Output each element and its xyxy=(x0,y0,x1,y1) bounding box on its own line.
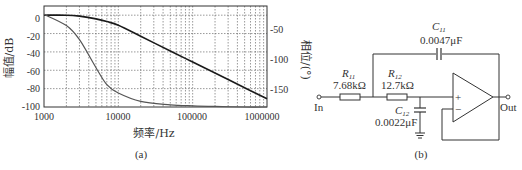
caption-b: (b) xyxy=(415,148,428,161)
caption-a: (a) xyxy=(135,148,148,161)
y-tick: -80 xyxy=(27,83,40,94)
y-tick: -40 xyxy=(27,48,40,59)
y-axis-label-right: 相位/(°) xyxy=(299,40,313,80)
y-tick: 0 xyxy=(35,13,40,24)
y-right-tick: -100 xyxy=(270,54,288,65)
resistor-r11 xyxy=(340,94,360,100)
phase-curve xyxy=(44,14,267,107)
c11-name: C11 xyxy=(432,20,446,34)
opamp-plus: + xyxy=(455,91,461,103)
x-axis-label: 频率/Hz xyxy=(133,126,174,140)
y-axis-label-left: 幅值/dB xyxy=(3,38,16,79)
r11-value: 7.68kΩ xyxy=(333,79,366,91)
y-right-tick: -150 xyxy=(270,84,288,95)
plot-frame xyxy=(44,6,267,107)
x-tick: 100000 xyxy=(177,111,207,122)
x-ticks: 1000 10000 100000 1000000 xyxy=(34,111,280,122)
output-label: Out xyxy=(500,101,517,113)
grid-lines xyxy=(44,6,267,107)
y-tick: -60 xyxy=(27,66,40,77)
y-left-ticks: 0 -20 -40 -60 -80 -100 xyxy=(22,13,40,112)
resistor-r12 xyxy=(387,94,407,100)
ground-icon xyxy=(415,133,425,138)
figure: 0 -20 -40 -60 -80 -100 -50 -100 -150 100… xyxy=(0,0,522,170)
opamp-minus: − xyxy=(455,103,461,115)
y-right-ticks: -50 -100 -150 xyxy=(270,24,288,95)
y-right-tick: -50 xyxy=(270,24,283,35)
circuit-diagram: In R11 7.68kΩ C11 0.0047μF R12 12.7kΩ xyxy=(314,20,517,161)
x-tick: 10000 xyxy=(106,111,131,122)
x-tick: 1000 xyxy=(34,111,54,122)
y-tick: -20 xyxy=(27,31,40,42)
c12-value: 0.0022μF xyxy=(375,116,417,128)
input-label: In xyxy=(314,101,324,113)
input-terminal xyxy=(317,95,321,99)
r12-value: 12.7kΩ xyxy=(381,79,414,91)
output-terminal xyxy=(506,95,510,99)
x-tick: 1000000 xyxy=(245,111,280,122)
bode-plot: 0 -20 -40 -60 -80 -100 -50 -100 -150 100… xyxy=(3,6,313,161)
c11-value: 0.0047μF xyxy=(420,34,462,46)
magnitude-curve xyxy=(44,15,267,99)
